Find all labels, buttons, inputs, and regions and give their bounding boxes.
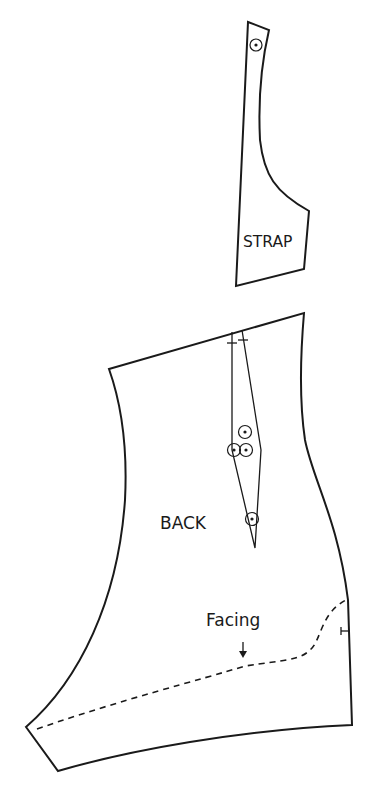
arrow-down-icon — [239, 642, 247, 658]
strap-piece: STRAP — [236, 22, 309, 286]
pattern-diagram: STRAP BACK Facing — [0, 0, 390, 785]
strap-label: STRAP — [243, 233, 292, 251]
back-outline — [26, 313, 352, 771]
back-piece: BACK Facing — [26, 313, 352, 771]
strap-grain-marker — [250, 39, 262, 51]
facing-line — [37, 599, 348, 729]
facing-label: Facing — [206, 610, 260, 630]
back-label: BACK — [160, 513, 207, 533]
